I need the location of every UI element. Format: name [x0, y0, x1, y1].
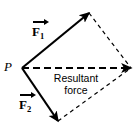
parallelogram-side-upper	[89, 13, 131, 68]
force-f2-subscript: 2	[27, 104, 31, 114]
force-f1-subscript: 1	[40, 31, 44, 41]
force-f1-letter: F	[32, 24, 40, 39]
resultant-caption-line-1: Resultant	[48, 73, 104, 85]
force-vector-f2-label: F2	[19, 91, 36, 111]
vector-accent-arrow-icon	[20, 91, 36, 98]
vector-accent-arrow-icon	[33, 18, 49, 25]
origin-point-label: P	[4, 60, 12, 73]
force-vector-f1-label: F1	[32, 18, 49, 38]
resultant-force-caption: Resultant force	[48, 73, 104, 96]
force-f2-symbol: F2	[19, 98, 36, 111]
force-f1-symbol: F1	[32, 25, 49, 38]
resultant-force-diagram: P F1 F2 Resultant force	[0, 0, 138, 134]
resultant-caption-line-2: force	[48, 85, 104, 97]
force-f2-letter: F	[19, 97, 27, 112]
vector-diagram-svg	[0, 0, 138, 134]
